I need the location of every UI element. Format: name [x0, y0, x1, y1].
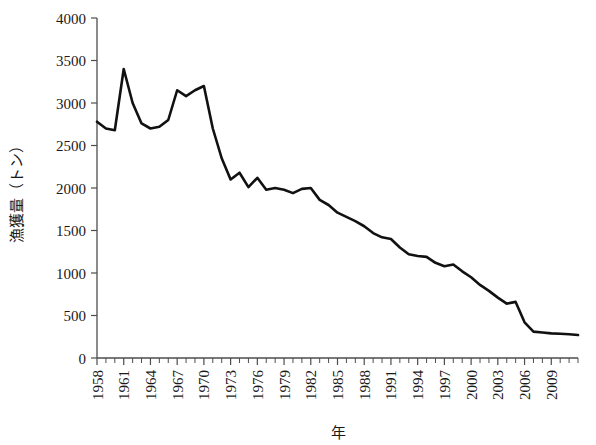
y-tick-label: 2000: [56, 181, 86, 197]
x-tick-label: 1997: [437, 370, 453, 401]
y-tick-label: 1000: [56, 266, 86, 282]
y-tick-label: 1500: [56, 223, 86, 239]
x-tick-label: 1970: [196, 370, 212, 400]
x-tick-label: 1991: [383, 370, 399, 400]
chart-canvas: 05001000150020002500300035004000 1958196…: [0, 0, 596, 445]
y-tick-label: 500: [64, 308, 87, 324]
x-tick-label: 1961: [116, 370, 132, 400]
y-tick-label: 3500: [56, 53, 86, 69]
x-tick-label: 1958: [90, 370, 106, 400]
fishery-catch-line-chart: 05001000150020002500300035004000 1958196…: [0, 0, 596, 445]
y-tick-label: 3000: [56, 96, 86, 112]
x-tick-label: 1967: [170, 370, 186, 401]
x-tick-label: 1985: [330, 370, 346, 400]
x-tick-label: 1976: [250, 370, 266, 401]
x-tick-label: 1964: [143, 370, 159, 401]
y-axis-title: 漁獲量（トン）: [9, 138, 25, 243]
x-tick-label: 1979: [277, 370, 293, 400]
x-tick-label: 1982: [303, 370, 319, 400]
x-axis-title: 年: [331, 425, 346, 441]
y-tick-label: 4000: [56, 11, 86, 27]
x-tick-label: 1994: [410, 370, 426, 401]
x-tick-label: 2009: [544, 370, 560, 400]
x-tick-label: 1973: [223, 370, 239, 400]
x-tick-label: 2003: [490, 370, 506, 400]
y-tick-label: 0: [79, 351, 87, 367]
x-tick-label: 2000: [464, 370, 480, 400]
y-tick-label: 2500: [56, 138, 86, 154]
x-tick-label: 2006: [517, 370, 533, 401]
x-tick-label: 1988: [357, 370, 373, 400]
